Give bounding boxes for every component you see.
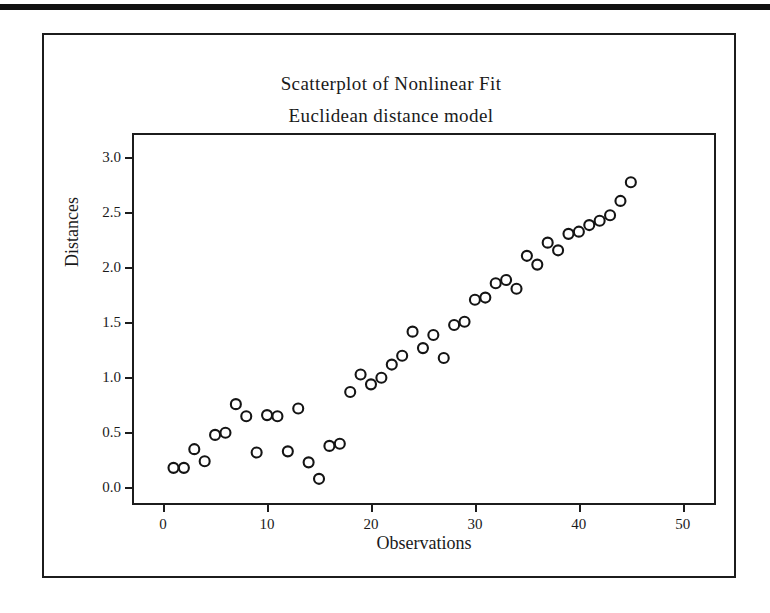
data-point	[595, 216, 605, 226]
data-point	[532, 260, 542, 270]
data-point	[439, 353, 449, 363]
data-point	[200, 456, 210, 466]
figure-box: Scatterplot of Nonlinear Fit Euclidean d…	[42, 33, 736, 578]
y-tick-mark	[125, 212, 134, 214]
scatter-points-layer	[134, 135, 714, 503]
data-point	[304, 457, 314, 467]
x-tick-mark	[371, 503, 373, 512]
data-point	[501, 275, 511, 285]
x-tick-mark	[579, 503, 581, 512]
data-point	[574, 227, 584, 237]
data-point	[460, 317, 470, 327]
data-point	[418, 343, 428, 353]
data-point	[397, 351, 407, 361]
y-tick-label: 3.0	[102, 148, 121, 165]
data-point	[189, 444, 199, 454]
data-point	[584, 220, 594, 230]
y-tick-mark	[125, 157, 134, 159]
data-point	[252, 447, 262, 457]
y-tick-label: 1.5	[102, 313, 121, 330]
x-tick-mark	[163, 503, 165, 512]
data-point	[408, 327, 418, 337]
data-point	[345, 387, 355, 397]
y-tick-mark	[125, 267, 134, 269]
y-tick-label: 0.5	[102, 423, 121, 440]
x-tick-mark	[475, 503, 477, 512]
data-point	[543, 238, 553, 248]
data-point	[210, 430, 220, 440]
data-point	[470, 295, 480, 305]
data-point	[262, 410, 272, 420]
data-point	[522, 251, 532, 261]
data-point	[605, 210, 615, 220]
data-point	[491, 278, 501, 288]
data-point	[324, 441, 334, 451]
data-point	[283, 446, 293, 456]
page-top-rule	[0, 4, 770, 10]
data-point	[387, 360, 397, 370]
x-tick-label: 20	[363, 516, 378, 533]
data-point	[615, 196, 625, 206]
data-point	[553, 245, 563, 255]
x-tick-label: 30	[467, 516, 482, 533]
chart-subtitle: Euclidean distance model	[44, 105, 738, 127]
x-tick-label: 40	[571, 516, 586, 533]
data-point	[449, 320, 459, 330]
data-point	[356, 369, 366, 379]
data-point	[220, 428, 230, 438]
data-point	[335, 439, 345, 449]
y-tick-mark	[125, 487, 134, 489]
data-point	[480, 293, 490, 303]
data-point	[512, 284, 522, 294]
y-axis-title: Distances	[62, 197, 83, 267]
x-tick-label: 0	[159, 516, 167, 533]
chart-title: Scatterplot of Nonlinear Fit	[44, 73, 738, 95]
data-point	[314, 474, 324, 484]
y-tick-label: 2.0	[102, 258, 121, 275]
data-point	[293, 404, 303, 414]
data-point	[366, 379, 376, 389]
x-tick-label: 10	[260, 516, 275, 533]
data-point	[231, 399, 241, 409]
data-point	[169, 463, 179, 473]
y-tick-label: 2.5	[102, 203, 121, 220]
data-point	[376, 373, 386, 383]
data-point	[626, 177, 636, 187]
data-point	[563, 229, 573, 239]
x-tick-mark	[267, 503, 269, 512]
y-tick-mark	[125, 432, 134, 434]
x-tick-label: 50	[675, 516, 690, 533]
data-point	[272, 411, 282, 421]
data-point	[241, 411, 251, 421]
x-tick-mark	[683, 503, 685, 512]
data-point	[428, 330, 438, 340]
y-tick-mark	[125, 377, 134, 379]
y-tick-label: 1.0	[102, 368, 121, 385]
x-axis-title: Observations	[132, 533, 716, 554]
y-tick-mark	[125, 322, 134, 324]
y-tick-label: 0.0	[102, 478, 121, 495]
plot-area: 0.00.51.01.52.02.53.0 01020304050	[132, 133, 716, 505]
data-point	[179, 463, 189, 473]
